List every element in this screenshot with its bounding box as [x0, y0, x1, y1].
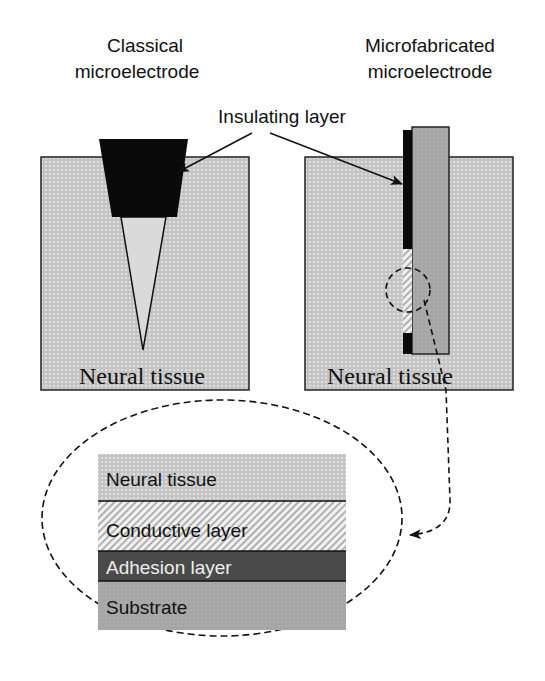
insulator-strip-bottom	[403, 333, 412, 354]
layer-label-adhesion: Adhesion layer	[106, 557, 232, 578]
layer-label-neural: Neural tissue	[106, 469, 217, 490]
microelectrode-diagram: Classical microelectrode Microfabricated…	[0, 0, 545, 681]
right-tissue-label: Neural tissue	[327, 363, 453, 389]
right-title-line2: microelectrode	[368, 61, 493, 82]
left-title-line1: Classical	[107, 35, 183, 56]
insulator-strip-top	[403, 130, 412, 249]
left-title-line2: microelectrode	[75, 61, 200, 82]
layer-detail: Neural tissue Conductive layer Adhesion …	[42, 400, 402, 636]
insulator-trapezoid	[99, 139, 188, 217]
conductive-site	[403, 249, 412, 333]
layer-label-conductive: Conductive layer	[106, 520, 248, 541]
microfab-panel: Neural tissue	[305, 127, 513, 390]
left-tissue-label: Neural tissue	[79, 363, 205, 389]
insulating-layer-label: Insulating layer	[218, 106, 346, 127]
substrate-shank	[412, 127, 449, 354]
right-title-line1: Microfabricated	[365, 35, 495, 56]
layer-label-substrate: Substrate	[106, 597, 187, 618]
classical-panel: Neural tissue	[41, 139, 249, 390]
